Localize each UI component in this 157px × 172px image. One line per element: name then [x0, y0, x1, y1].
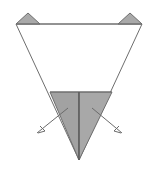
- origami-fold-diagram: [0, 0, 157, 172]
- figure-canvas: Paper folding step diagram Inverted tria…: [0, 0, 157, 172]
- shaded-triangle-right-half: [79, 92, 112, 160]
- shaded-triangle-left-half: [50, 92, 79, 160]
- top-right-corner-flap: [118, 13, 142, 24]
- top-left-corner-flap: [16, 13, 40, 24]
